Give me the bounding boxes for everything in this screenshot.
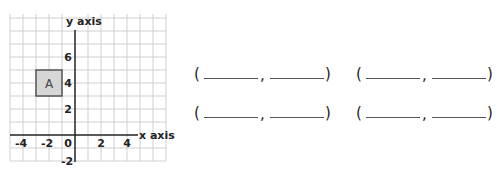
answer-pair-4: ( , ) <box>356 104 491 124</box>
x-value-blank[interactable] <box>204 78 258 79</box>
comma: , <box>260 66 265 84</box>
y-tick-label: 4 <box>64 77 72 90</box>
coordinate-grid: A y axis x axis -4 -2 0 2 4 6 4 2 -2 <box>0 0 180 170</box>
answer-pair-1: ( , ) <box>194 65 329 85</box>
x-tick-label: 2 <box>97 137 105 150</box>
close-paren: ) <box>325 104 331 122</box>
x-tick-label: 0 <box>64 137 72 150</box>
comma: , <box>422 66 427 84</box>
close-paren: ) <box>487 65 493 83</box>
open-paren: ( <box>356 104 362 122</box>
y-tick-label: -2 <box>61 155 73 168</box>
comma: , <box>422 105 427 123</box>
x-value-blank[interactable] <box>366 117 420 118</box>
close-paren: ) <box>487 104 493 122</box>
x-tick-label: -4 <box>15 137 28 150</box>
y-value-blank[interactable] <box>432 117 486 118</box>
y-value-blank[interactable] <box>432 78 486 79</box>
y-tick-label: 6 <box>64 51 72 64</box>
x-value-blank[interactable] <box>204 117 258 118</box>
shape-a-label: A <box>45 77 54 91</box>
x-axis-label: x axis <box>139 129 175 142</box>
y-value-blank[interactable] <box>270 117 324 118</box>
shape-a: A <box>36 70 62 96</box>
y-axis-label: y axis <box>66 15 102 28</box>
open-paren: ( <box>356 65 362 83</box>
answer-pair-3: ( , ) <box>194 104 329 124</box>
answer-pair-2: ( , ) <box>356 65 491 85</box>
x-tick-label: -2 <box>41 137 53 150</box>
y-tick-label: 2 <box>64 103 72 116</box>
comma: , <box>260 105 265 123</box>
open-paren: ( <box>194 104 200 122</box>
close-paren: ) <box>325 65 331 83</box>
y-value-blank[interactable] <box>270 78 324 79</box>
open-paren: ( <box>194 65 200 83</box>
x-tick-label: 4 <box>123 137 131 150</box>
x-value-blank[interactable] <box>366 78 420 79</box>
